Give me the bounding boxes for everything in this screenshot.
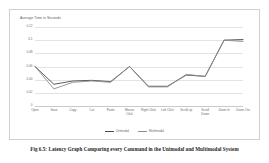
plot-area: 0.120.10.080.060.040.020OpenSaveCopyCutP… bbox=[35, 27, 243, 106]
y-tick-label: 0.02 bbox=[26, 91, 32, 94]
y-tick-label: 0.06 bbox=[26, 65, 32, 68]
chart-card: Average Time in Seconds 0.120.10.080.060… bbox=[9, 9, 260, 140]
y-tick-label: 0.08 bbox=[26, 52, 32, 55]
figure-caption: Fig 6.5: Latency Graph Comparing every C… bbox=[0, 146, 269, 152]
series-canvas bbox=[35, 27, 243, 106]
figure-container: Average Time in Seconds 0.120.10.080.060… bbox=[0, 0, 269, 163]
series-line-multimodal bbox=[35, 40, 243, 89]
legend-item-multimodal[interactable]: Multimodal bbox=[138, 130, 164, 133]
chart-legend: Unimodal Multimodal bbox=[10, 130, 259, 133]
y-tick-label: 0.12 bbox=[26, 25, 32, 28]
axis-baseline bbox=[35, 106, 243, 107]
plot-wrapper: 0.120.10.080.060.040.020OpenSaveCopyCutP… bbox=[10, 10, 259, 139]
y-tick-label: 0.1 bbox=[28, 38, 32, 41]
legend-swatch-icon-multimodal bbox=[138, 131, 147, 132]
y-tick-label: 0.04 bbox=[26, 78, 32, 81]
legend-item-unimodal[interactable]: Unimodal bbox=[105, 130, 129, 133]
x-tick-label: Zoom Out bbox=[232, 109, 254, 113]
legend-swatch-icon-unimodal bbox=[105, 131, 114, 132]
legend-label-multimodal: Multimodal bbox=[149, 130, 164, 133]
legend-label-unimodal: Unimodal bbox=[116, 130, 129, 133]
